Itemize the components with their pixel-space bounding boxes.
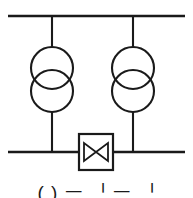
right-transformer-secondary-winding-icon [112,70,154,112]
schematic-canvas [0,0,193,198]
left-transformer-secondary-winding-icon [31,70,73,112]
single-line-diagram-figure: ( ) ᅳ ᅵ ᅳ ᅵ [0,0,193,198]
figure-caption: ( ) ᅳ ᅵ ᅳ ᅵ [0,182,193,198]
left-transformer-primary-winding-icon [31,47,73,89]
right-transformer-primary-winding-icon [112,47,154,89]
